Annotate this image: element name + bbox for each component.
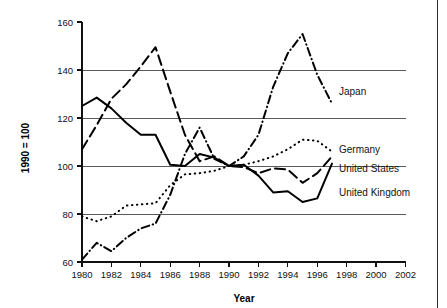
x-tick-label-1986: 1986 (160, 269, 181, 280)
series-labels: JapanGermanyUnited StatesUnited Kingdom (339, 86, 410, 198)
x-axis-title: Year (233, 293, 254, 304)
series-line-germany (82, 140, 332, 222)
y-tick-label-80: 80 (62, 209, 73, 220)
x-tick-label-1980: 1980 (71, 269, 92, 280)
y-tick-label-100: 100 (57, 161, 73, 172)
series-line-united-kingdom (82, 98, 332, 202)
series-label-united-states: United States (339, 163, 399, 174)
data-series (82, 34, 332, 260)
x-tick-label-1992: 1992 (248, 269, 269, 280)
x-axis-tick-labels: 1980198219841986198819901992199419961998… (71, 269, 416, 280)
x-tick-label-1988: 1988 (189, 269, 210, 280)
y-axis-title: 1990 = 100 (20, 122, 31, 173)
series-label-united-kingdom: United Kingdom (339, 187, 410, 198)
y-tick-label-60: 60 (62, 257, 73, 268)
chart-axes (82, 22, 406, 262)
y-tick-label-160: 160 (57, 17, 73, 28)
y-axis-tick-labels: 6080100120140160 (57, 17, 73, 268)
x-tick-label-1996: 1996 (307, 269, 328, 280)
x-tick-label-1984: 1984 (130, 269, 151, 280)
x-tick-label-1982: 1982 (101, 269, 122, 280)
x-axis-ticks (82, 262, 406, 267)
line-chart: 1980198219841986198819901992199419961998… (0, 0, 447, 308)
x-tick-label-1998: 1998 (336, 269, 357, 280)
series-label-germany: Germany (339, 144, 380, 155)
series-line-japan (82, 34, 332, 260)
x-tick-label-2000: 2000 (366, 269, 387, 280)
y-axis-ticks (77, 22, 82, 262)
x-tick-label-1990: 1990 (218, 269, 239, 280)
y-tick-label-120: 120 (57, 113, 73, 124)
y-tick-label-140: 140 (57, 65, 73, 76)
x-tick-label-2002: 2002 (395, 269, 416, 280)
x-tick-label-1994: 1994 (277, 269, 298, 280)
series-label-japan: Japan (339, 86, 366, 97)
chart-page: 1980198219841986198819901992199419961998… (0, 0, 447, 308)
